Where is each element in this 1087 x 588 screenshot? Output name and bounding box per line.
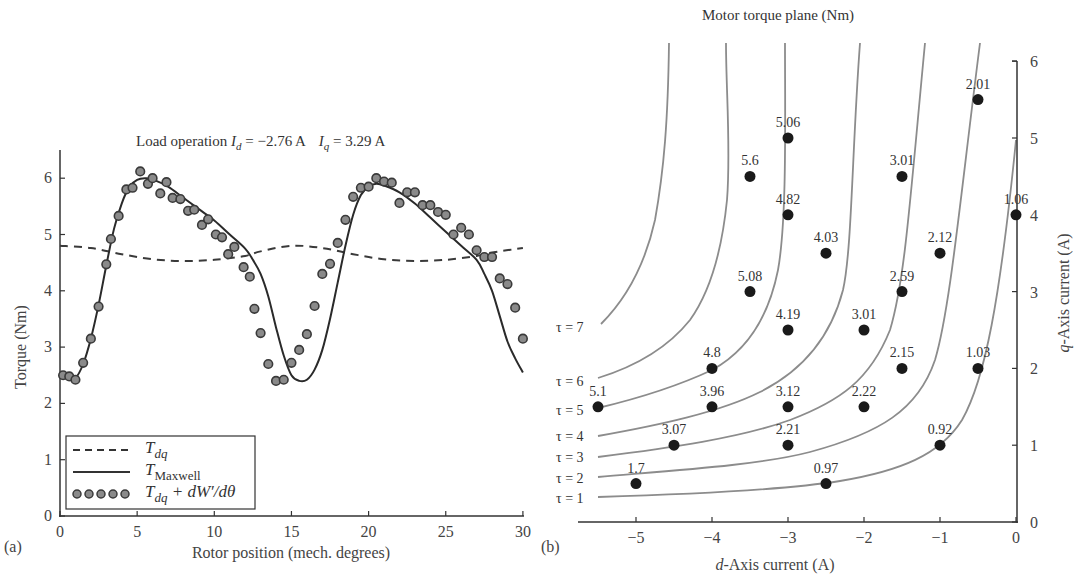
data-marker <box>94 302 103 311</box>
y-tick-label: 2 <box>1030 360 1038 377</box>
point-torque-label: 2.22 <box>852 384 877 399</box>
measured-point <box>669 440 680 451</box>
point-torque-label: 2.21 <box>776 422 801 437</box>
data-marker <box>411 188 420 197</box>
data-marker <box>148 174 157 183</box>
panel-a-torque-vs-rotor-position: Load operation Id = −2.76 A Iq = 3.29 A … <box>4 133 531 562</box>
data-marker <box>128 183 137 192</box>
measured-point <box>935 440 946 451</box>
data-marker <box>114 212 123 221</box>
data-marker <box>71 375 80 384</box>
point-torque-label: 1.06 <box>1004 192 1029 207</box>
contour-label: τ = 5 <box>556 403 584 418</box>
data-marker <box>511 303 520 312</box>
panel-a-series <box>59 167 527 385</box>
data-marker <box>495 274 504 283</box>
data-marker <box>465 230 474 239</box>
data-marker <box>457 223 466 232</box>
measured-point <box>707 401 718 412</box>
t-dq-line <box>60 246 523 261</box>
data-marker <box>349 192 358 201</box>
panel-a-title: Load operation Id = −2.76 A Iq = 3.29 A <box>136 133 385 152</box>
torque-contour-tau-6 <box>598 43 729 378</box>
t-maxwell-line <box>60 178 523 381</box>
measured-point <box>1011 209 1022 220</box>
point-torque-label: 3.12 <box>776 384 801 399</box>
y-tick-label: 3 <box>44 338 52 355</box>
x-tick-label: −2 <box>855 529 872 546</box>
x-tick-label: −4 <box>703 529 720 546</box>
measured-point <box>707 363 718 374</box>
measured-point <box>821 478 832 489</box>
point-torque-label: 2.15 <box>890 345 915 360</box>
measured-point <box>745 286 756 297</box>
contour-label: τ = 7 <box>556 320 584 335</box>
measured-point <box>783 440 794 451</box>
measured-point <box>859 325 870 336</box>
point-torque-label: 5.6 <box>741 153 759 168</box>
data-marker <box>333 239 342 248</box>
point-torque-label: 0.97 <box>814 461 839 476</box>
data-marker <box>426 201 435 210</box>
contour-label: τ = 1 <box>556 491 584 506</box>
y-tick-label: 0 <box>44 507 52 524</box>
data-marker <box>204 215 213 224</box>
measured-point <box>897 171 908 182</box>
point-torque-label: 5.06 <box>776 115 801 130</box>
point-torque-label: 5.1 <box>589 384 607 399</box>
data-marker <box>230 243 239 252</box>
data-marker <box>218 233 227 242</box>
data-marker <box>318 270 327 279</box>
data-marker <box>519 334 528 343</box>
y-tick-label: 6 <box>44 169 52 186</box>
x-tick-label: 0 <box>56 523 64 540</box>
point-torque-label: 2.12 <box>928 230 953 245</box>
measured-point <box>783 209 794 220</box>
x-axis-title: Rotor position (mech. degrees) <box>192 544 390 562</box>
y-tick-label: 5 <box>1030 130 1038 147</box>
y-tick-label: 4 <box>44 282 52 299</box>
measured-point <box>973 94 984 105</box>
contour-label: τ = 2 <box>556 471 584 486</box>
point-torque-label: 3.01 <box>890 153 915 168</box>
measured-point <box>935 248 946 259</box>
data-marker <box>256 329 265 338</box>
point-torque-label: 3.96 <box>700 384 725 399</box>
data-marker <box>176 195 185 204</box>
point-torque-label: 3.07 <box>662 422 687 437</box>
x-tick-label: −3 <box>779 529 796 546</box>
data-marker <box>190 205 199 214</box>
point-torque-label: 1.03 <box>966 345 991 360</box>
data-marker <box>449 230 458 239</box>
point-torque-label: 2.59 <box>890 269 915 284</box>
torque-contour-tau-1 <box>598 140 1016 497</box>
data-marker <box>503 280 512 289</box>
point-torque-label: 1.7 <box>627 461 645 476</box>
measured-point <box>783 133 794 144</box>
x-axis-title: d-Axis current (A) <box>715 556 834 574</box>
y-tick-label: 2 <box>44 394 52 411</box>
point-torque-label: 0.92 <box>928 422 953 437</box>
point-torque-label: 3.01 <box>852 307 877 322</box>
data-marker <box>102 260 111 269</box>
x-tick-label: 25 <box>438 523 454 540</box>
data-marker <box>364 182 373 191</box>
panel-b-points: 5.065.62.013.014.821.064.032.125.082.594… <box>589 77 1028 490</box>
data-marker <box>107 235 116 244</box>
y-tick-label: 4 <box>1030 207 1038 224</box>
measured-point <box>897 363 908 374</box>
x-tick-label: 15 <box>283 523 299 540</box>
x-tick-label: 5 <box>133 523 141 540</box>
panel-b-title: Motor torque plane (Nm) <box>702 7 854 24</box>
data-marker <box>87 334 96 343</box>
y-tick-label: 6 <box>1030 53 1038 70</box>
data-marker <box>310 302 319 311</box>
data-marker <box>303 330 312 339</box>
data-marker <box>441 210 450 219</box>
y-axis-title: Torque (Nm) <box>12 305 30 389</box>
panel-b-motor-torque-plane: Motor torque plane (Nm) τ = 1τ = 2τ = 3τ… <box>541 7 1073 574</box>
data-marker <box>245 272 254 281</box>
y-tick-label: 5 <box>44 226 52 243</box>
x-tick-label: −5 <box>627 529 644 546</box>
data-marker <box>156 189 165 198</box>
